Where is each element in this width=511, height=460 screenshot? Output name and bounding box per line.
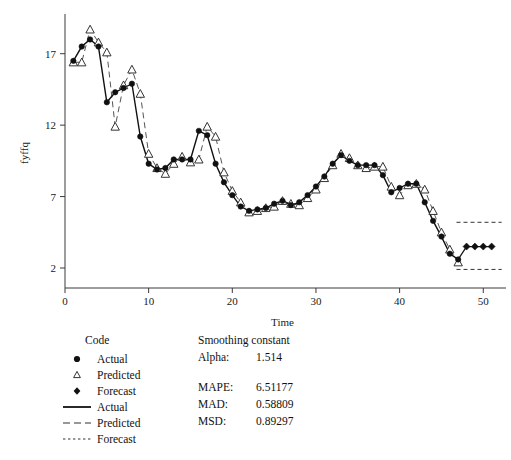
- data-point-predicted: [111, 122, 119, 130]
- stats-spacer: [198, 368, 378, 381]
- data-point-actual: [397, 185, 402, 190]
- data-point-actual: [447, 251, 452, 256]
- x-tick-label: 0: [62, 295, 68, 307]
- data-point-predicted: [103, 48, 111, 56]
- data-point-predicted: [395, 191, 403, 199]
- data-point-actual: [163, 165, 168, 170]
- data-point-actual: [255, 207, 260, 212]
- data-point-actual: [414, 181, 419, 186]
- stat-label-mape: MAPE:: [198, 381, 256, 398]
- legend-stats-column: Smoothing constant Alpha: 1.514 MAPE: 6.…: [198, 334, 378, 432]
- data-point-actual: [305, 192, 310, 197]
- series-line-predicted: [73, 29, 458, 262]
- data-point-actual: [230, 192, 235, 197]
- data-point-actual: [288, 202, 293, 207]
- x-tick-label: 30: [310, 295, 322, 307]
- data-point-actual: [121, 85, 126, 90]
- legend-item-forecast-marker: Forecast: [62, 383, 202, 399]
- legend-label-forecast-marker: Forecast: [92, 385, 136, 397]
- stat-row-msd: MSD: 0.89297: [198, 415, 378, 432]
- data-point-forecast: [480, 243, 487, 250]
- dotted-line-icon: [62, 431, 92, 447]
- data-point-predicted: [195, 155, 203, 163]
- x-tick-label: 10: [143, 295, 155, 307]
- x-axis-ticks: 01020304050: [62, 288, 489, 307]
- data-point-forecast: [463, 243, 470, 250]
- data-point-actual: [422, 200, 427, 205]
- data-point-actual: [112, 90, 117, 95]
- stat-row-mape: MAPE: 6.51177: [198, 381, 378, 398]
- y-tick-label: 7: [51, 191, 57, 203]
- legend-item-actual-line: Actual: [62, 399, 202, 415]
- data-point-actual: [196, 128, 201, 133]
- data-point-actual: [246, 208, 251, 213]
- legend-item-actual-marker: Actual: [62, 351, 202, 367]
- legend-code-column: Code Actual Predicted Forecast: [62, 334, 202, 447]
- dashed-line-icon: [62, 415, 92, 431]
- data-point-actual: [71, 58, 76, 63]
- legend-label-forecast-line: Forecast: [92, 433, 136, 445]
- data-point-actual: [188, 157, 193, 162]
- y-axis-ticks: 271217: [45, 48, 65, 274]
- data-point-forecast: [471, 243, 478, 250]
- data-point-actual: [455, 257, 460, 262]
- stat-value-mad: 0.58809: [256, 398, 293, 415]
- data-point-actual: [338, 152, 343, 157]
- data-point-actual: [138, 134, 143, 139]
- data-point-actual: [389, 190, 394, 195]
- data-point-predicted: [136, 90, 144, 98]
- legend-code-header: Code: [85, 334, 202, 346]
- data-point-actual: [297, 200, 302, 205]
- data-point-actual: [330, 161, 335, 166]
- legend-item-predicted-line: Predicted: [62, 415, 202, 431]
- legend-item-predicted-marker: Predicted: [62, 367, 202, 383]
- legend-label-predicted-marker: Predicted: [92, 369, 140, 381]
- stat-row-alpha: Alpha: 1.514: [198, 351, 378, 368]
- data-point-actual: [171, 157, 176, 162]
- x-tick-label: 40: [394, 295, 406, 307]
- data-point-predicted: [421, 185, 429, 193]
- data-point-actual: [96, 44, 101, 49]
- data-point-actual: [313, 184, 318, 189]
- data-point-actual: [380, 172, 385, 177]
- legend-label-actual-line: Actual: [92, 401, 128, 413]
- data-point-actual: [213, 161, 218, 166]
- data-point-actual: [79, 44, 84, 49]
- data-point-predicted: [203, 122, 211, 130]
- data-point-actual: [430, 218, 435, 223]
- data-point-actual: [405, 181, 410, 186]
- y-axis-title: fyffq: [18, 142, 30, 164]
- legend-area: Code Actual Predicted Forecast: [0, 330, 511, 460]
- legend-label-predicted-line: Predicted: [92, 417, 140, 429]
- data-point-actual: [439, 234, 444, 239]
- stat-value-msd: 0.89297: [256, 415, 293, 432]
- data-point-predicted: [429, 207, 437, 215]
- chart-plot-area: 271217 01020304050 Time fyffq: [0, 0, 511, 330]
- filled-diamond-icon: [62, 383, 92, 399]
- data-point-actual: [205, 132, 210, 137]
- legend-item-forecast-line: Forecast: [62, 431, 202, 447]
- data-point-actual: [347, 158, 352, 163]
- data-point-predicted: [220, 168, 228, 176]
- data-point-actual: [372, 162, 377, 167]
- data-point-actual: [271, 201, 276, 206]
- data-point-actual: [363, 162, 368, 167]
- solid-line-icon: [62, 399, 92, 415]
- series-markers-predicted: [69, 25, 462, 266]
- stat-label-mad: MAD:: [198, 398, 256, 415]
- filled-circle-icon: [62, 351, 92, 367]
- stat-label-msd: MSD:: [198, 415, 256, 432]
- data-point-predicted: [86, 25, 94, 33]
- data-point-actual: [280, 198, 285, 203]
- x-tick-label: 20: [227, 295, 239, 307]
- open-triangle-icon: [62, 367, 92, 383]
- data-point-actual: [87, 37, 92, 42]
- data-point-actual: [322, 174, 327, 179]
- data-point-forecast: [488, 243, 495, 250]
- data-point-actual: [263, 205, 268, 210]
- data-point-actual: [104, 100, 109, 105]
- stat-value-alpha: 1.514: [256, 351, 282, 368]
- data-point-predicted: [128, 65, 136, 73]
- data-point-actual: [238, 204, 243, 209]
- data-point-actual: [179, 157, 184, 162]
